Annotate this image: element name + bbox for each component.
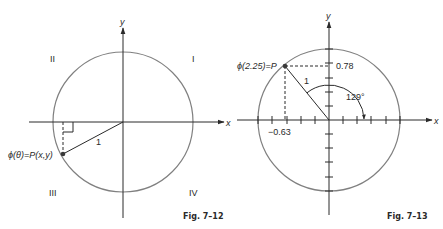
figure-caption: Fig. 7–13 (387, 212, 427, 221)
quadrant-III-label: III (49, 188, 57, 198)
quadrant-II-label: II (50, 54, 55, 64)
y-axis-label: y (119, 17, 125, 27)
radius-segment (63, 122, 123, 154)
figure-7-13: x y (237, 11, 439, 221)
radius-label: 1 (96, 137, 101, 147)
point-label: ϕ(2.25)=P (237, 61, 277, 71)
quadrant-I-label: I (192, 54, 195, 64)
radius-label: 1 (304, 76, 309, 86)
diagram-canvas: x y II I III IV ϕ(θ)=P(x,y) 1 Fig. 7–12 … (0, 0, 443, 229)
x-value-label: −0.63 (268, 127, 291, 137)
angle-label: 129° (346, 92, 365, 102)
point-P (283, 64, 288, 69)
y-value-label: 0.78 (336, 61, 354, 71)
right-angle-marker (63, 122, 73, 132)
point-P (61, 152, 66, 157)
quadrant-IV-label: IV (189, 188, 198, 198)
x-axis-label: x (433, 116, 439, 126)
figure-7-12: x y II I III IV ϕ(θ)=P(x,y) 1 Fig. 7–12 (8, 17, 231, 221)
y-axis-label: y (325, 11, 331, 21)
radius-segment (285, 66, 329, 120)
point-label: ϕ(θ)=P(x,y) (8, 150, 53, 160)
x-axis-label: x (225, 118, 231, 128)
figure-caption: Fig. 7–12 (183, 212, 223, 221)
angle-arc (307, 85, 364, 119)
